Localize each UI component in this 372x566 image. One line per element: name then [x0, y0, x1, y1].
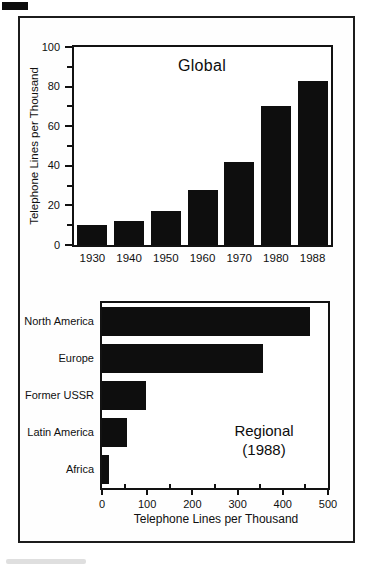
- regional-chart-title: Regional: [204, 421, 324, 440]
- regional-bar-africa: [102, 455, 109, 484]
- global-y-tick-label: 80: [28, 80, 60, 93]
- regional-x-tick-label: 300: [218, 498, 258, 511]
- global-y-tick-major: [65, 165, 72, 167]
- cut-off-caption-smudge: [6, 559, 86, 564]
- regional-category-label: Former USSR: [8, 389, 94, 402]
- global-y-tick-label: 0: [28, 239, 60, 252]
- regional-x-tick-major: [191, 490, 193, 495]
- global-y-tick-minor: [67, 105, 72, 107]
- global-y-tick-major: [65, 125, 72, 127]
- global-bar-1970: [224, 162, 254, 245]
- scan-corner-mark: [2, 2, 28, 10]
- global-y-tick-label: 100: [28, 41, 60, 54]
- regional-x-tick-major: [101, 490, 103, 495]
- global-y-tick-major: [65, 86, 72, 88]
- global-bar-1930: [77, 225, 107, 245]
- global-bar-1980: [261, 106, 291, 245]
- regional-x-tick-label: 100: [127, 498, 167, 511]
- regional-chart-subtitle: (1988): [204, 440, 324, 459]
- figure: Telephone Lines per Thousand Global Regi…: [0, 0, 372, 566]
- regional-x-tick-major: [282, 490, 284, 495]
- global-chart-plot: [72, 45, 333, 247]
- regional-x-tick-minor: [214, 484, 216, 488]
- regional-x-tick-label: 200: [172, 498, 212, 511]
- regional-category-label: North America: [8, 315, 94, 328]
- regional-x-tick-label: 0: [82, 498, 122, 511]
- regional-x-tick-major: [327, 490, 329, 495]
- regional-x-tick-label: 400: [263, 498, 303, 511]
- global-bar-1940: [114, 221, 144, 245]
- global-x-tick-label: 1988: [291, 252, 335, 265]
- regional-annotation: Regional (1988): [204, 421, 324, 459]
- global-y-tick-major: [65, 46, 72, 48]
- global-chart-title: Global: [142, 57, 262, 75]
- regional-bar-former-ussr: [102, 381, 146, 410]
- regional-bar-north-america: [102, 307, 310, 336]
- global-y-tick-major: [65, 204, 72, 206]
- regional-x-tick-minor: [169, 484, 171, 488]
- regional-x-tick-major: [146, 490, 148, 495]
- regional-category-label: Africa: [8, 463, 94, 476]
- global-bar-1988: [298, 81, 328, 245]
- global-y-tick-label: 20: [28, 199, 60, 212]
- regional-x-tick-minor: [304, 484, 306, 488]
- regional-x-axis-title: Telephone Lines per Thousand: [103, 512, 329, 526]
- global-bar-1960: [188, 190, 218, 245]
- global-y-tick-minor: [67, 66, 72, 68]
- regional-x-tick-minor: [124, 484, 126, 488]
- regional-bar-europe: [102, 344, 263, 373]
- global-y-tick-minor: [67, 185, 72, 187]
- global-y-axis-title: Telephone Lines per Thousand: [27, 46, 41, 246]
- regional-x-tick-major: [237, 490, 239, 495]
- regional-x-tick-minor: [259, 484, 261, 488]
- global-y-tick-major: [65, 244, 72, 246]
- regional-category-label: Latin America: [8, 426, 94, 439]
- global-y-tick-minor: [67, 224, 72, 226]
- global-bar-1950: [151, 211, 181, 245]
- global-y-tick-label: 40: [28, 159, 60, 172]
- regional-bar-latin-america: [102, 418, 127, 447]
- global-y-tick-minor: [67, 145, 72, 147]
- regional-x-tick-label: 500: [308, 498, 348, 511]
- global-y-tick-label: 60: [28, 120, 60, 133]
- regional-chart-plot: [100, 301, 330, 490]
- regional-category-label: Europe: [8, 352, 94, 365]
